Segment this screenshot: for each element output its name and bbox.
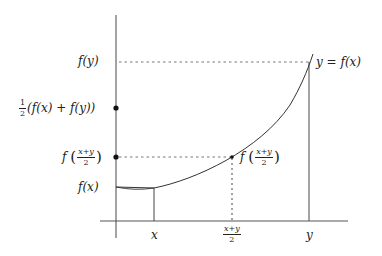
x-mid-fraction: x+y2 — [223, 225, 241, 244]
diagram-canvas — [0, 0, 382, 256]
label-half-sum: 1 2 (f(x) + f(y)) — [18, 99, 95, 118]
label-f-y: f(y) — [78, 55, 99, 67]
half-sum-dot — [113, 105, 118, 110]
point-fraction: x+y2 — [255, 148, 273, 167]
label-f-x: f(x) — [78, 181, 99, 193]
convex-curve — [116, 54, 313, 188]
label-x: x — [151, 229, 158, 241]
half-fraction: 1 2 — [19, 99, 26, 118]
label-y: y — [306, 229, 313, 241]
f-mid-axis-dot — [113, 154, 118, 159]
label-mid: x+y2 — [222, 225, 242, 244]
label-point-f-mid: f (x+y2) — [240, 148, 280, 167]
label-curve: y = f(x) — [316, 56, 361, 68]
mid-fraction: x+y2 — [77, 148, 95, 167]
f-mid-curve-dot — [230, 155, 234, 159]
label-f-mid: f (x+y2) — [62, 148, 102, 167]
